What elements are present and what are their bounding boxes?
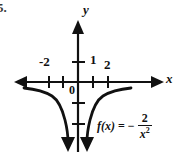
minus-sign: − bbox=[128, 120, 135, 132]
fraction-numerator: 2 bbox=[140, 112, 150, 125]
fraction: 2 x2 bbox=[138, 112, 152, 140]
y-tick-label-one: 1 bbox=[90, 53, 97, 66]
origin-label: 0 bbox=[69, 84, 75, 96]
function-equation-label: f(x) = − 2 x2 bbox=[97, 112, 152, 140]
curve-left-arrowhead bbox=[61, 137, 75, 152]
denominator-exponent: 2 bbox=[146, 126, 150, 135]
x-axis-left-arrowhead bbox=[14, 76, 27, 88]
equals-sign: = bbox=[118, 120, 125, 132]
y-axis-label: y bbox=[83, 3, 89, 16]
curve-right-arrowhead bbox=[80, 137, 94, 152]
function-name: f(x) bbox=[97, 120, 115, 132]
curve-left-branch bbox=[24, 88, 68, 142]
graph-canvas bbox=[0, 0, 179, 156]
y-axis-top-arrowhead bbox=[72, 20, 84, 34]
x-axis-label: x bbox=[166, 72, 173, 85]
fraction-denominator: x2 bbox=[138, 126, 152, 140]
x-tick-label-neg2: -2 bbox=[39, 55, 50, 68]
graph-figure: 5. y x -2 1 2 0 f(x) = − 2 x2 bbox=[0, 0, 179, 156]
x-axis-right-arrowhead bbox=[151, 76, 164, 88]
problem-number: 5. bbox=[0, 1, 7, 14]
x-tick-label-pos2: 2 bbox=[104, 58, 111, 71]
